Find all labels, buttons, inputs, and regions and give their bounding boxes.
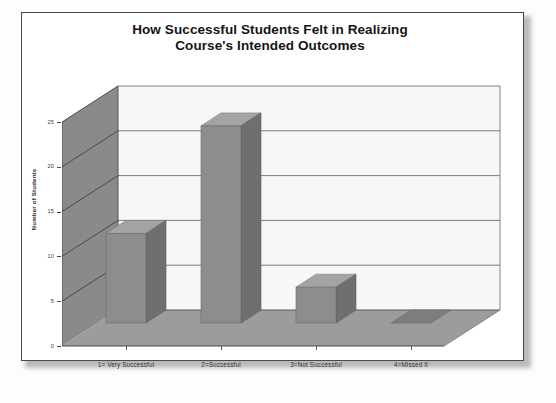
- scanned-page: How Successful Students Felt in Realizin…: [0, 0, 556, 403]
- y-tick-mark-15: [57, 212, 61, 213]
- y-tick-mark-0: [57, 346, 61, 347]
- x-tick-mark-4: [411, 346, 412, 350]
- y-tick-mark-5: [57, 301, 61, 302]
- x-tick-mark-3: [316, 346, 317, 350]
- chart-3d-scene: [62, 82, 517, 357]
- chart-title-line-1: How Successful Students Felt in Realizin…: [60, 22, 480, 38]
- chart-plot-area: 25 20 15 10 5 0 1= Very Successful 2=Suc…: [62, 82, 517, 357]
- y-tick-label-25: 25: [32, 119, 54, 125]
- x-tick-mark-2: [221, 346, 222, 350]
- bar-2: [201, 113, 261, 323]
- x-category-label-3: 3=Not Successful: [266, 361, 366, 368]
- chart-svg: [62, 82, 517, 357]
- bar-3: [296, 274, 356, 323]
- plot-back-wall: [118, 86, 500, 310]
- chart-title: How Successful Students Felt in Realizin…: [60, 22, 480, 54]
- x-category-label-1: 1= Very Successful: [76, 361, 176, 368]
- y-tick-mark-10: [57, 256, 61, 257]
- y-tick-label-5: 5: [32, 298, 54, 304]
- y-tick-label-0: 0: [32, 343, 54, 349]
- y-tick-mark-25: [57, 122, 61, 123]
- y-tick-label-10: 10: [32, 253, 54, 259]
- y-tick-label-20: 20: [32, 163, 54, 169]
- bar-1: [106, 220, 166, 323]
- y-tick-mark-20: [57, 167, 61, 168]
- x-category-label-4: 4=Missed It: [361, 361, 461, 368]
- x-category-label-2: 2=Successful: [171, 361, 271, 368]
- y-axis-title: Number of Students: [30, 145, 37, 255]
- x-tick-mark-1: [126, 346, 127, 350]
- chart-title-line-2: Course's Intended Outcomes: [60, 38, 480, 54]
- y-tick-label-15: 15: [32, 208, 54, 214]
